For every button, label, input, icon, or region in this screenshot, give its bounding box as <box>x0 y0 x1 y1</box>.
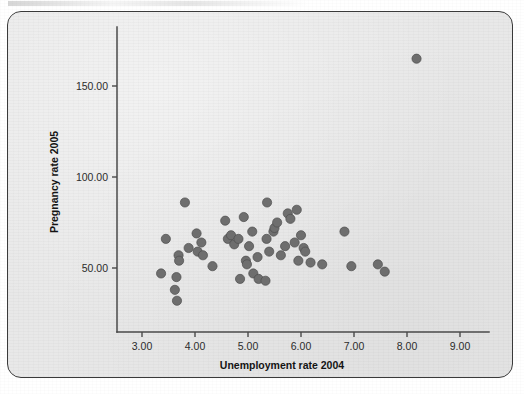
data-point <box>281 242 290 251</box>
data-point <box>235 274 244 283</box>
x-tick-label: 4.00 <box>185 340 206 352</box>
y-tick-label: 100.00 <box>76 171 108 183</box>
data-point <box>197 238 206 247</box>
data-point <box>221 216 230 225</box>
data-point <box>261 276 270 285</box>
plot-canvas: 50.00100.00150.00 3.004.005.006.007.008.… <box>0 0 524 394</box>
x-tick-label: 6.00 <box>291 340 312 352</box>
x-tick-label: 9.00 <box>450 340 471 352</box>
scatter-plot-figure: 50.00100.00150.00 3.004.005.006.007.008.… <box>0 0 524 394</box>
data-point <box>242 260 251 269</box>
data-point <box>262 234 271 243</box>
data-point <box>306 258 315 267</box>
x-tick-label: 3.00 <box>132 340 153 352</box>
x-tick-label: 5.00 <box>238 340 259 352</box>
x-tick-label: 8.00 <box>397 340 418 352</box>
data-point <box>262 198 271 207</box>
data-point <box>172 296 181 305</box>
data-point <box>192 229 201 238</box>
data-point <box>286 214 295 223</box>
data-point <box>156 269 165 278</box>
x-axis-ticks: 3.004.005.006.007.008.009.00 <box>132 332 471 352</box>
data-point <box>172 273 181 282</box>
data-point <box>301 247 310 256</box>
data-point <box>318 260 327 269</box>
data-point <box>184 243 193 252</box>
data-point <box>380 267 389 276</box>
data-point <box>276 251 285 260</box>
x-axis-title: Unemployment rate 2004 <box>220 359 344 371</box>
data-point <box>347 262 356 271</box>
data-point <box>234 234 243 243</box>
data-point <box>294 256 303 265</box>
data-point <box>161 234 170 243</box>
data-point <box>170 285 179 294</box>
data-point <box>340 227 349 236</box>
y-tick-label: 150.00 <box>76 80 108 92</box>
x-tick-label: 7.00 <box>344 340 365 352</box>
data-point <box>175 256 184 265</box>
data-point <box>248 227 257 236</box>
data-point <box>208 262 217 271</box>
data-point <box>239 212 248 221</box>
y-tick-label: 50.00 <box>82 262 108 274</box>
data-points-group <box>156 54 421 305</box>
data-point <box>273 218 282 227</box>
y-axis-title: Pregnancy rate 2005 <box>48 131 60 233</box>
data-point <box>244 242 253 251</box>
data-point <box>296 231 305 240</box>
data-point <box>290 238 299 247</box>
data-point <box>292 205 301 214</box>
data-point <box>412 54 421 63</box>
data-point <box>373 260 382 269</box>
data-point <box>198 251 207 260</box>
data-point <box>253 252 262 261</box>
data-point <box>265 247 274 256</box>
data-point <box>180 198 189 207</box>
y-axis-ticks: 50.00100.00150.00 <box>76 80 117 274</box>
